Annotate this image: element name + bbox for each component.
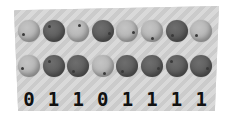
bead [190, 55, 212, 77]
bead [92, 55, 114, 77]
bead [190, 20, 212, 42]
bead [116, 20, 138, 42]
top-bead-row [18, 20, 212, 42]
digit: 0 [92, 88, 114, 110]
bead [18, 20, 40, 42]
bead [141, 55, 163, 77]
bead [43, 20, 65, 42]
binary-digits: 0 1 1 0 1 1 1 1 [18, 88, 212, 110]
digit: 1 [43, 88, 65, 110]
bead [18, 55, 40, 77]
bead [116, 55, 138, 77]
bead [43, 55, 65, 77]
bead [166, 55, 188, 77]
bottom-bead-row [18, 55, 212, 77]
bead [92, 20, 114, 42]
digit: 1 [166, 88, 188, 110]
digit: 1 [67, 88, 89, 110]
bead [166, 20, 188, 42]
digit: 1 [190, 88, 212, 110]
digit: 1 [116, 88, 138, 110]
digit: 0 [18, 88, 40, 110]
bead [67, 20, 89, 42]
bead [141, 20, 163, 42]
digit: 1 [141, 88, 163, 110]
bead [67, 55, 89, 77]
